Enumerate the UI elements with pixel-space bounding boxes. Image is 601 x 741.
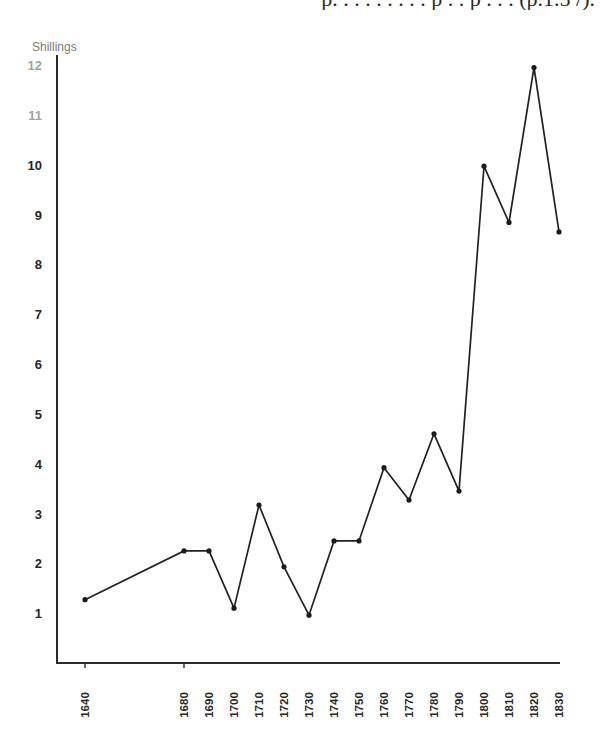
y-tick-label: 7 [35, 307, 42, 322]
data-point [331, 538, 336, 543]
data-point [456, 488, 461, 493]
data-point [356, 538, 361, 543]
data-point [556, 229, 561, 234]
y-tick-label: 6 [35, 357, 42, 372]
chart-axes [57, 55, 560, 663]
x-tick-label: 1770 [403, 692, 415, 718]
x-tick-label: 1690 [203, 692, 215, 718]
y-axis-title: Shillings [32, 40, 77, 54]
x-tick-label: 1790 [453, 692, 465, 718]
y-tick-label: 4 [35, 457, 43, 472]
y-tick-label: 2 [35, 556, 42, 571]
x-tick-label: 1710 [253, 692, 265, 718]
data-point [406, 497, 411, 502]
x-tick-label: 1820 [528, 692, 540, 718]
y-tick-label: 9 [35, 208, 42, 223]
data-point [231, 606, 236, 611]
x-tick-label: 1830 [553, 692, 565, 718]
y-tick-label: 3 [35, 507, 42, 522]
x-tick-label: 1720 [278, 692, 290, 718]
data-point [281, 564, 286, 569]
data-point [306, 613, 311, 618]
data-point [181, 548, 186, 553]
data-point [82, 597, 87, 602]
x-tick-label: 1810 [503, 692, 515, 718]
data-point [506, 220, 511, 225]
data-point [256, 502, 261, 507]
y-tick-label: 11 [28, 108, 42, 123]
x-tick-label: 1750 [353, 692, 365, 718]
x-tick-label: 1780 [428, 692, 440, 718]
x-tick-label: 1800 [478, 692, 490, 718]
x-tick-label: 1680 [178, 692, 190, 718]
x-tick-label: 1700 [228, 692, 240, 718]
line-chart: Shillings 123456789101112 16401680169017… [0, 0, 601, 741]
y-tick-label: 5 [35, 407, 42, 422]
y-tick-label: 12 [28, 58, 42, 73]
series-markers [82, 65, 561, 618]
y-tick-label: 1 [35, 606, 42, 621]
data-point [381, 465, 386, 470]
y-tick-label: 8 [35, 257, 42, 272]
data-point [206, 548, 211, 553]
x-axis-ticks: 1640168016901700171017201730174017501760… [79, 663, 565, 718]
data-point [531, 65, 536, 70]
data-point [481, 164, 486, 169]
series-line [85, 68, 559, 616]
x-tick-label: 1640 [79, 692, 91, 718]
y-axis-ticks: 123456789101112 [28, 58, 43, 621]
x-tick-label: 1730 [303, 692, 315, 718]
y-tick-label: 10 [28, 158, 42, 173]
x-tick-label: 1760 [378, 692, 390, 718]
data-point [431, 431, 436, 436]
x-tick-label: 1740 [328, 692, 340, 718]
